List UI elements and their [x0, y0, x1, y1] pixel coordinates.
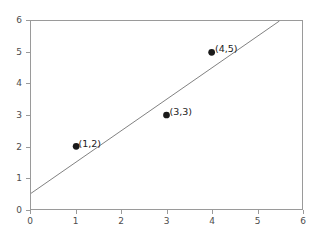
y-tick-label: 6: [6, 16, 22, 25]
plot-canvas: [31, 21, 302, 209]
y-tick-label: 0: [6, 206, 22, 215]
data-point-label: (3,3): [170, 107, 193, 117]
fit-line: [31, 21, 279, 193]
chart-figure: 0123456 0123456 (1,2)(3,3)(4,5): [0, 0, 321, 233]
y-tick-label: 2: [6, 142, 22, 151]
x-tick-mark: [258, 210, 259, 214]
x-tick-mark: [167, 210, 168, 214]
x-tick-label: 3: [164, 217, 170, 226]
y-tick-mark: [26, 210, 30, 211]
x-tick-label: 4: [209, 217, 215, 226]
x-tick-label: 1: [73, 217, 79, 226]
y-tick-label: 1: [6, 174, 22, 183]
x-tick-mark: [303, 210, 304, 214]
x-tick-mark: [212, 210, 213, 214]
x-tick-mark: [30, 210, 31, 214]
plot-area: [30, 20, 303, 210]
y-tick-mark: [26, 20, 30, 21]
y-tick-label: 4: [6, 79, 22, 88]
y-tick-mark: [26, 115, 30, 116]
x-tick-mark: [121, 210, 122, 214]
x-tick-label: 6: [300, 217, 306, 226]
x-tick-label: 2: [118, 217, 124, 226]
y-tick-label: 3: [6, 111, 22, 120]
x-tick-mark: [76, 210, 77, 214]
y-tick-mark: [26, 83, 30, 84]
data-point-label: (4,5): [215, 44, 238, 54]
y-tick-label: 5: [6, 47, 22, 56]
y-tick-mark: [26, 147, 30, 148]
y-tick-mark: [26, 52, 30, 53]
data-point-markers: [73, 49, 215, 150]
y-tick-mark: [26, 178, 30, 179]
x-tick-label: 5: [255, 217, 261, 226]
data-point-label: (1,2): [79, 139, 102, 149]
x-tick-label: 0: [27, 217, 33, 226]
